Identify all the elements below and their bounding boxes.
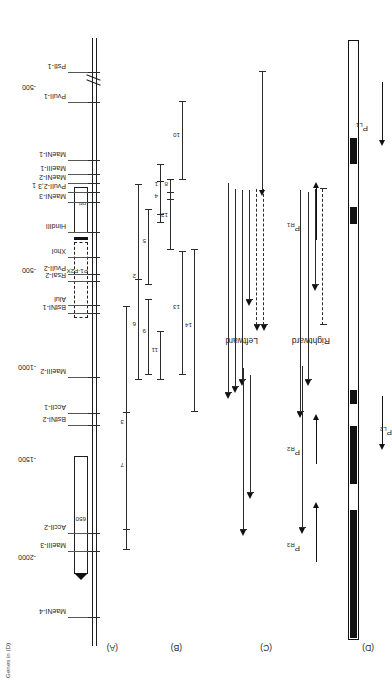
panel-label-d: (D) bbox=[362, 644, 374, 653]
promoter-arrow-pl1 bbox=[382, 82, 383, 140]
panel-label-a: (A) bbox=[107, 644, 118, 653]
promoter-arrow-pl2 bbox=[382, 396, 383, 444]
promoter-label-pl2: PL2 bbox=[380, 426, 392, 436]
panel-label-c: (C) bbox=[260, 644, 272, 653]
panel-label-b: (B) bbox=[171, 644, 182, 653]
caption-fragment: Genes in (D) bbox=[5, 643, 11, 678]
